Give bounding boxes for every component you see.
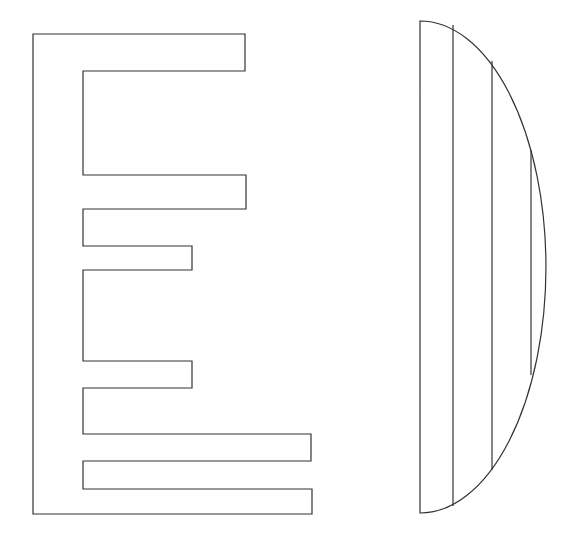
comb-outline bbox=[33, 34, 312, 514]
half-ellipse-shape bbox=[420, 21, 546, 513]
vertical-chords bbox=[453, 25, 531, 506]
half-ellipse-outline bbox=[420, 21, 546, 513]
diagram-canvas bbox=[0, 0, 567, 543]
comb-shape bbox=[33, 34, 312, 514]
